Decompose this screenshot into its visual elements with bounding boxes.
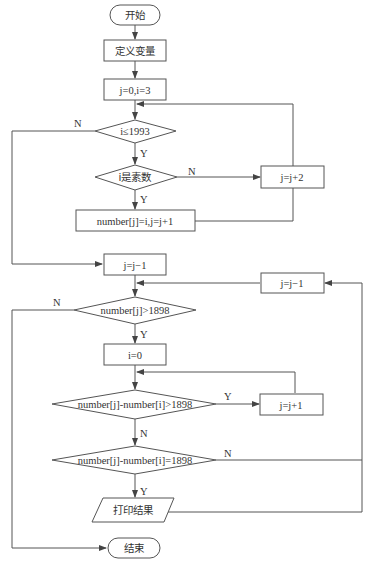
label-prime-yes: Y <box>140 194 148 205</box>
flowchart: 开始 定义变量 j=0,i=3 i≤1993 i是素数 j=j+2 number… <box>0 0 372 566</box>
svg-text:number[j]>1898: number[j]>1898 <box>101 305 170 316</box>
svg-text:i=0: i=0 <box>128 350 142 361</box>
decision-greater: number[j]>1898 <box>74 297 196 324</box>
svg-text:j=j+2: j=j+2 <box>280 172 304 183</box>
label-diff-gt-no: N <box>140 428 148 439</box>
node-decrement-j-2: j=j−1 <box>261 273 324 293</box>
svg-text:number[j]-number[i]>1898: number[j]-number[i]>1898 <box>78 399 192 410</box>
svg-text:j=j+1: j=j+1 <box>279 400 303 411</box>
svg-text:定义变量: 定义变量 <box>115 45 156 57</box>
svg-text:i≤1993: i≤1993 <box>120 126 150 137</box>
node-decrement-j-1: j=j−1 <box>104 254 166 275</box>
svg-text:number[j]=i,j=j+1: number[j]=i,j=j+1 <box>97 216 173 227</box>
label-range-no: N <box>74 118 82 129</box>
label-diff-gt-yes: Y <box>224 391 232 402</box>
svg-text:结束: 结束 <box>124 542 145 554</box>
decision-diff-equal: number[j]-number[i]=1898 <box>52 446 216 474</box>
label-gt-no: N <box>53 297 61 308</box>
node-store-prime: number[j]=i,j=j+1 <box>76 210 195 231</box>
decision-range: i≤1993 <box>95 120 176 143</box>
node-print-result: 打印结果 <box>92 498 174 522</box>
flowchart-canvas: 开始 定义变量 j=0,i=3 i≤1993 i是素数 j=j+2 number… <box>0 0 372 566</box>
node-start: 开始 <box>110 5 160 25</box>
svg-text:number[j]-number[i]=1898: number[j]-number[i]=1898 <box>78 455 192 466</box>
svg-text:j=0,i=3: j=0,i=3 <box>119 85 151 96</box>
svg-text:开始: 开始 <box>125 9 146 21</box>
node-increment-i: j=j+1 <box>260 394 323 415</box>
decision-is-prime: i是素数 <box>95 165 177 190</box>
label-gt-yes: Y <box>140 329 148 340</box>
svg-text:打印结果: 打印结果 <box>113 504 154 516</box>
label-diff-eq-no: N <box>224 448 232 459</box>
node-end: 结束 <box>108 538 160 558</box>
decision-diff-greater: number[j]-number[i]>1898 <box>52 390 216 419</box>
node-step-i: j=j+2 <box>261 166 324 188</box>
svg-text:i是素数: i是素数 <box>119 171 153 183</box>
node-define-variables: 定义变量 <box>104 40 166 61</box>
node-reset-i: i=0 <box>104 344 166 365</box>
svg-text:j=j−1: j=j−1 <box>123 260 147 271</box>
label-range-yes: Y <box>140 148 148 159</box>
node-init: j=0,i=3 <box>104 79 166 100</box>
label-prime-no: N <box>188 166 196 177</box>
svg-text:j=j−1: j=j−1 <box>280 278 304 289</box>
label-diff-eq-yes: Y <box>140 486 148 497</box>
